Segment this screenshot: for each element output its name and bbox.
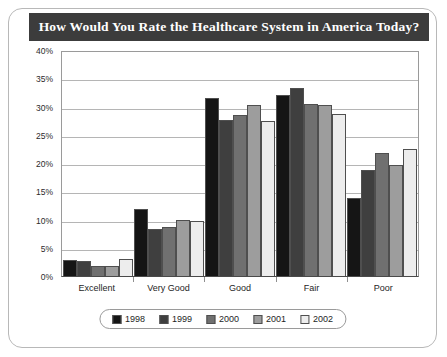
legend-label: 2001	[266, 314, 286, 324]
bar	[318, 105, 332, 276]
y-axis-tick-label: 0%	[41, 272, 53, 282]
bar	[403, 149, 417, 276]
bar	[247, 105, 261, 276]
y-axis-tick-label: 20%	[36, 159, 53, 169]
legend-swatch-icon	[159, 315, 168, 324]
x-axis-labels: ExcellentVery GoodGoodFairPoor	[61, 283, 419, 293]
y-axis-tick-label: 15%	[36, 187, 53, 197]
legend-item[interactable]: 1999	[159, 314, 192, 324]
bar	[105, 266, 119, 276]
plot-wrapper: 40%35%30%25%20%15%10%5%0% ExcellentVery …	[23, 51, 423, 303]
legend-item[interactable]: 2001	[253, 314, 286, 324]
legend-swatch-icon	[206, 315, 215, 324]
bar	[134, 209, 148, 276]
bar-group	[62, 52, 133, 276]
bar	[233, 115, 247, 276]
bar-group	[276, 52, 347, 276]
bar	[148, 229, 162, 276]
chart-figure: How Would You Rate the Healthcare System…	[8, 8, 437, 348]
plot-area	[61, 51, 419, 277]
bar	[332, 114, 346, 276]
x-axis-category-label: Good	[204, 283, 276, 293]
bar	[205, 98, 219, 276]
legend-label: 2000	[219, 314, 239, 324]
bar	[219, 120, 233, 277]
bar	[91, 266, 105, 276]
bar	[347, 198, 361, 276]
y-axis-tick-label: 5%	[41, 244, 53, 254]
x-axis-category-label: Poor	[347, 283, 419, 293]
bar	[63, 260, 77, 276]
x-axis-tickmark	[347, 277, 348, 282]
bar	[190, 221, 204, 276]
legend-swatch-icon	[112, 315, 121, 324]
bar	[361, 170, 375, 276]
legend-swatch-icon	[253, 315, 262, 324]
y-axis-tick-label: 35%	[36, 74, 53, 84]
y-axis-tick-label: 10%	[36, 216, 53, 226]
x-axis-tickmark	[133, 277, 134, 282]
legend-label: 2002	[313, 314, 333, 324]
legend-item[interactable]: 2002	[300, 314, 333, 324]
legend-item[interactable]: 1998	[112, 314, 145, 324]
bar	[77, 261, 91, 276]
bar-group	[204, 52, 275, 276]
y-axis-tick-label: 30%	[36, 103, 53, 113]
bar	[176, 220, 190, 276]
bar	[290, 88, 304, 276]
bar-group	[133, 52, 204, 276]
bar	[389, 165, 403, 276]
bar	[261, 121, 275, 276]
bar	[162, 227, 176, 276]
x-axis-category-label: Very Good	[133, 283, 205, 293]
x-axis-tickmark	[276, 277, 277, 282]
chart-legend: 19981999200020012002	[99, 309, 346, 329]
chart-title: How Would You Rate the Healthcare System…	[39, 19, 420, 35]
bar	[375, 153, 389, 276]
y-axis: 40%35%30%25%20%15%10%5%0%	[23, 51, 57, 277]
legend-item[interactable]: 2000	[206, 314, 239, 324]
bar	[276, 95, 290, 276]
legend-label: 1999	[172, 314, 192, 324]
y-axis-tick-label: 25%	[36, 131, 53, 141]
x-axis-category-label: Excellent	[61, 283, 133, 293]
legend-label: 1998	[125, 314, 145, 324]
bar	[119, 259, 133, 277]
x-axis-tickmark	[204, 277, 205, 282]
bar-groups	[62, 52, 418, 276]
y-axis-tick-label: 40%	[36, 46, 53, 56]
bar-group	[347, 52, 418, 276]
x-axis-category-label: Fair	[276, 283, 348, 293]
chart-title-bar: How Would You Rate the Healthcare System…	[29, 13, 429, 41]
legend-swatch-icon	[300, 315, 309, 324]
bar	[304, 104, 318, 276]
